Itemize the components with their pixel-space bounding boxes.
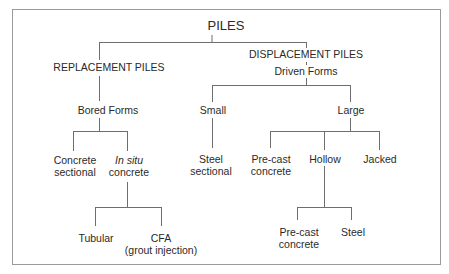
node-hollow-precast-concrete: Pre-cast concrete <box>279 226 319 250</box>
node-steel-sectional: Steel sectional <box>190 153 231 177</box>
node-hollow-precast-line1: Pre-cast <box>279 226 319 238</box>
node-cfa: CFA (grout injection) <box>125 232 197 256</box>
node-precast-concrete: Pre-cast concrete <box>251 153 291 177</box>
node-displacement-piles: DISPLACEMENT PILES <box>249 48 363 60</box>
node-piles: PILES <box>208 19 245 33</box>
node-hollow-precast-line2: concrete <box>279 238 319 250</box>
node-concrete-sectional-line2: sectional <box>54 166 97 178</box>
node-driven-forms: Driven Forms <box>274 65 337 77</box>
node-in-situ-line2: concrete <box>109 166 149 178</box>
node-hollow: Hollow <box>309 153 341 165</box>
node-cfa-line2: (grout injection) <box>125 244 197 256</box>
node-steel-sectional-line2: sectional <box>190 165 231 177</box>
node-small: Small <box>200 104 226 116</box>
node-precast-line2: concrete <box>251 165 291 177</box>
node-cfa-line1: CFA <box>125 232 197 244</box>
tree-connectors <box>0 0 449 274</box>
node-in-situ-concrete: In situ concrete <box>109 154 149 178</box>
node-precast-line1: Pre-cast <box>251 153 291 165</box>
node-bored-forms: Bored Forms <box>78 104 139 116</box>
node-in-situ-line1: In situ <box>109 154 149 166</box>
node-concrete-sectional-line1: Concrete <box>54 154 97 166</box>
node-tubular: Tubular <box>78 232 113 244</box>
node-hollow-steel: Steel <box>341 226 365 238</box>
node-steel-sectional-line1: Steel <box>190 153 231 165</box>
node-large: Large <box>338 104 365 116</box>
node-concrete-sectional: Concrete sectional <box>54 154 97 178</box>
node-jacked: Jacked <box>363 153 396 165</box>
node-replacement-piles: REPLACEMENT PILES <box>53 61 164 73</box>
